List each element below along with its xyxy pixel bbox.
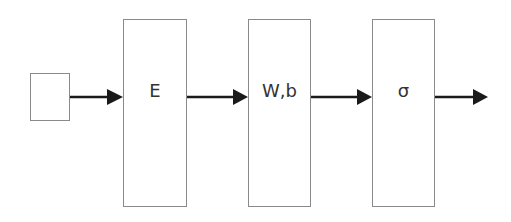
edge-activation-to-output — [434, 89, 488, 105]
arrowhead-icon — [357, 89, 372, 105]
arrowhead-icon — [107, 89, 123, 105]
input-node — [30, 73, 70, 121]
diagram-canvas: E W,b σ — [0, 0, 511, 222]
arrowhead-icon — [473, 89, 488, 105]
linear-node-label: W,b — [249, 82, 310, 100]
edge-linear-to-activation — [310, 89, 372, 105]
activation-node-label: σ — [373, 82, 434, 100]
embedding-node-label: E — [124, 82, 186, 100]
edge-embedding-to-linear — [186, 89, 248, 105]
arrowhead-icon — [233, 89, 248, 105]
linear-node: W,b — [248, 19, 311, 207]
embedding-node: E — [123, 19, 187, 207]
activation-node: σ — [372, 19, 435, 207]
edge-input-to-embedding — [69, 89, 123, 105]
